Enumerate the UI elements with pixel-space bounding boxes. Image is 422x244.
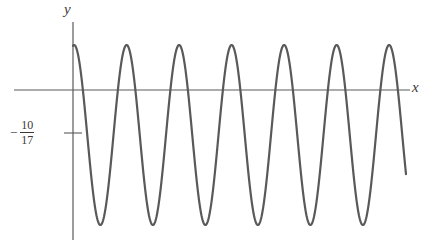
figure-canvas: y x − 10 17 bbox=[0, 0, 422, 244]
fraction-numerator: 10 bbox=[20, 119, 34, 132]
data-series-group bbox=[73, 45, 406, 225]
axes-group bbox=[14, 22, 410, 240]
minus-sign: − bbox=[10, 126, 17, 139]
oscillating-curve bbox=[73, 45, 406, 225]
y-intercept-tick-label: − 10 17 bbox=[10, 119, 34, 146]
fraction-10-over-17: 10 17 bbox=[20, 119, 34, 146]
plot-svg bbox=[0, 0, 422, 244]
fraction-denominator: 17 bbox=[20, 133, 34, 146]
x-axis-label: x bbox=[412, 80, 419, 95]
y-axis-label: y bbox=[64, 2, 71, 17]
